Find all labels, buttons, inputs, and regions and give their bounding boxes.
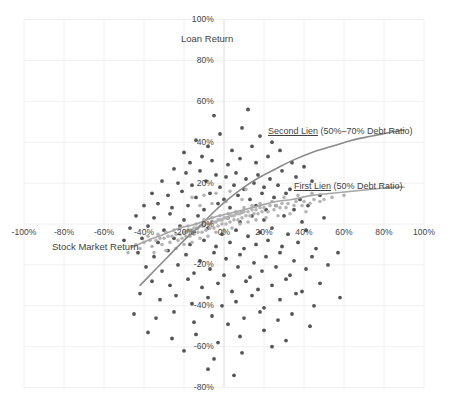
x-axis-title: Stock Market Return	[52, 241, 139, 252]
scatter-points	[122, 108, 346, 378]
y-tick-label: 100%	[180, 14, 214, 24]
series-points	[126, 187, 346, 254]
y-tick-label: -60%	[180, 341, 214, 351]
y-tick-label: 80%	[180, 55, 214, 65]
annotation-rest-text: (50%–70% Debt Ratio)	[318, 126, 413, 136]
x-tick-label: -40%	[124, 227, 164, 237]
x-tick-label: 40%	[284, 227, 324, 237]
annotation-underlined-text: First Lien	[294, 181, 331, 191]
y-tick-label: 20%	[180, 178, 214, 188]
x-tick-label: 20%	[244, 227, 284, 237]
x-tick-label: 80%	[364, 227, 404, 237]
annotation-underlined-text: Second Lien	[268, 126, 318, 136]
y-tick-label: -20%	[180, 259, 214, 269]
x-tick-label: 60%	[324, 227, 364, 237]
x-tick-label: 0%	[204, 227, 244, 237]
x-tick-label: -100%	[4, 227, 44, 237]
y-axis-title: Loan Return	[181, 33, 233, 44]
annotation-second-lien: Second Lien (50%–70% Debt Ratio)	[268, 126, 413, 136]
y-tick-label: -40%	[180, 300, 214, 310]
scatter-chart: 100%80%60%40%20%0%-20%-40%-60%-80% -100%…	[0, 0, 450, 397]
y-tick-label: -80%	[180, 382, 214, 392]
x-tick-label: 100%	[404, 227, 444, 237]
y-tick-label: 60%	[180, 96, 214, 106]
trend-curves	[134, 130, 404, 285]
x-tick-label: -20%	[164, 227, 204, 237]
x-tick-label: -60%	[84, 227, 124, 237]
annotation-first-lien: First Lien (50% Debt Ratio)	[294, 181, 403, 191]
y-tick-label: 40%	[180, 137, 214, 147]
plot-canvas	[0, 0, 450, 397]
annotation-rest-text: (50% Debt Ratio)	[331, 181, 403, 191]
series-points	[122, 108, 342, 378]
x-tick-label: -80%	[44, 227, 84, 237]
